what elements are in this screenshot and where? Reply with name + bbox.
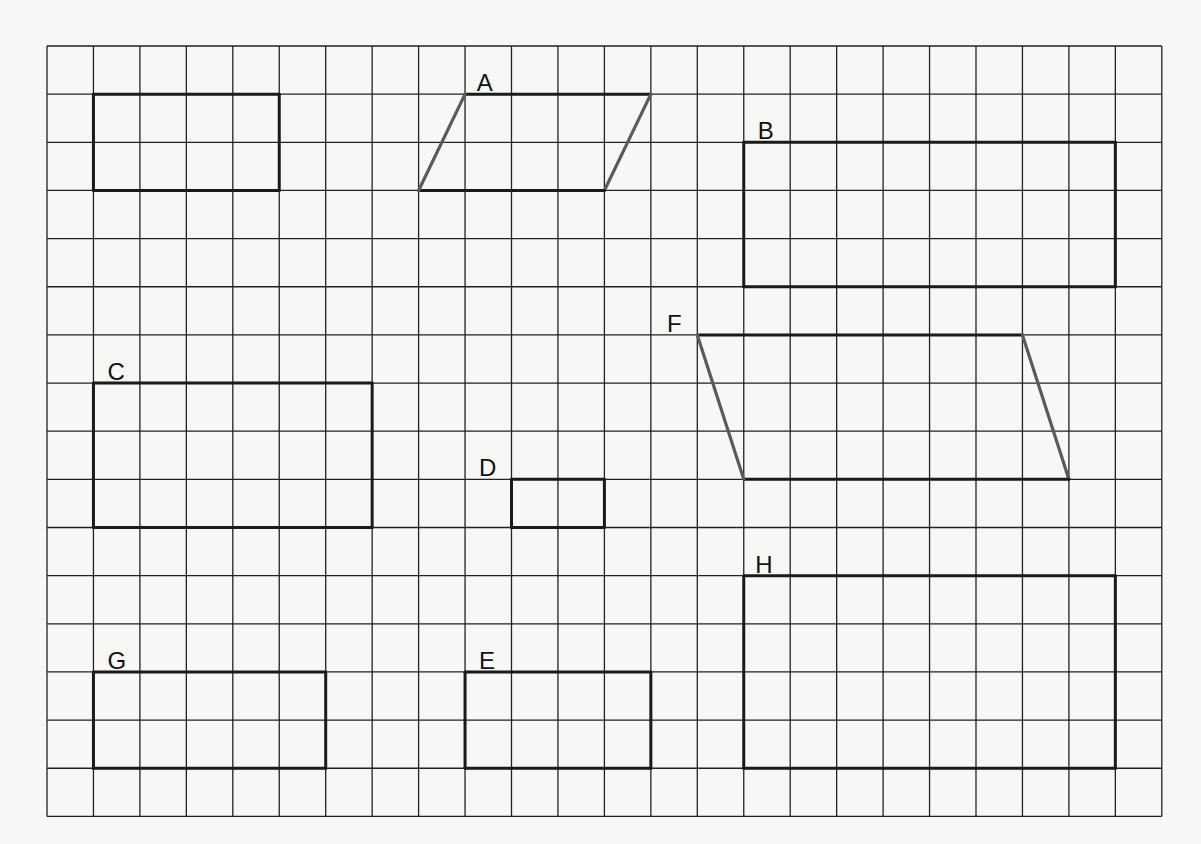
shape-label-g: G <box>107 647 126 674</box>
grid-diagram: ABCDEFGH <box>0 0 1201 844</box>
shape-label-b: B <box>758 117 774 144</box>
shape-label-c: C <box>107 358 124 385</box>
labels-layer: ABCDEFGH <box>107 69 773 674</box>
shape-label-d: D <box>479 454 496 481</box>
shape-label-a: A <box>477 69 493 96</box>
shape-label-e: E <box>479 647 495 674</box>
shape-label-f: F <box>667 310 682 337</box>
shape-edge-slanted <box>697 335 743 479</box>
grid-lines <box>47 46 1162 816</box>
shape-edge-slanted <box>1022 335 1068 479</box>
shape-label-h: H <box>755 551 772 578</box>
